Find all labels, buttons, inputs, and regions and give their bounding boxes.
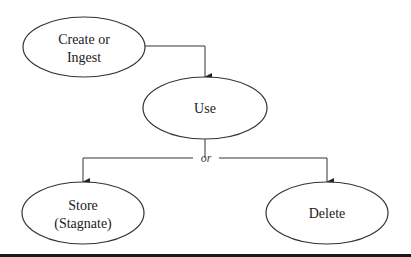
edge-create-to-use bbox=[145, 46, 205, 77]
lifecycle-diagram: or Create or Ingest Use Store (Stagnate)… bbox=[0, 0, 411, 257]
node-create-label-line1: Create or bbox=[58, 32, 110, 47]
node-use: Use bbox=[143, 77, 267, 139]
node-store-ellipse bbox=[22, 182, 144, 244]
node-delete: Delete bbox=[266, 182, 388, 244]
branch-label-or: or bbox=[201, 151, 212, 165]
node-create-label-line2: Ingest bbox=[67, 50, 101, 65]
node-store-label-line1: Store bbox=[68, 198, 98, 213]
node-use-label: Use bbox=[194, 101, 216, 116]
node-create-ellipse bbox=[23, 17, 145, 77]
edge-split-to-store bbox=[83, 158, 193, 182]
node-store-label-line2: (Stagnate) bbox=[54, 216, 112, 232]
node-create-ingest: Create or Ingest bbox=[23, 17, 145, 77]
edge-split-to-delete bbox=[219, 158, 327, 182]
node-delete-label: Delete bbox=[309, 206, 346, 221]
node-store: Store (Stagnate) bbox=[22, 182, 144, 244]
